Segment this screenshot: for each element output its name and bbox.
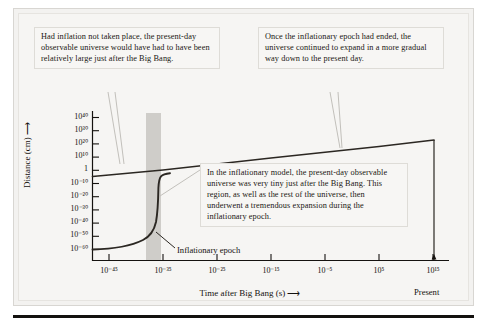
bottom-rule-divider [13,315,474,318]
ytick-label-9: 10⁻⁵⁰ [46,230,88,239]
x-axis-title: Time after Big Bang (s) ⟶ [150,288,350,298]
callout-left-text: Had inflation not taken place, the prese… [41,32,214,65]
y-axis-ticks [93,118,100,250]
callout-left: Had inflation not taken place, the prese… [34,27,220,69]
y-axis-arrow-icon: ⟶ [22,122,32,135]
leader-line-right-callout [330,92,342,148]
leader-line-left-callout [108,92,124,164]
ytick-label-0: 10⁴⁰ [46,112,88,121]
ytick-label-7: 10⁻³⁰ [46,204,88,213]
ytick-label-8: 10⁻⁴⁰ [46,217,88,226]
present-label: Present [414,287,439,297]
y-axis-title: Distance (cm) ⟶ [22,100,32,210]
ytick-label-2: 10²⁰ [46,138,88,147]
callout-middle-text: In the inflationary model, the present-d… [207,168,402,223]
xtick-label-5: 10⁵ [359,266,399,275]
xtick-label-1: 10⁻³⁵ [143,266,183,275]
xtick-label-3: 10⁻¹⁵ [251,266,291,275]
xtick-label-2: 10⁻²⁵ [197,266,237,275]
ytick-label-6: 10⁻²⁰ [46,191,88,200]
ytick-label-4: 1 [46,164,88,173]
x-axis-arrow-icon: ⟶ [287,288,300,298]
x-axis-title-text: Time after Big Bang (s) [200,288,286,298]
inflationary-epoch-label: Inflationary epoch [177,245,240,255]
callout-right: Once the inflationary epoch had ended, t… [258,27,444,69]
figure-container: 10⁴⁰ 10³⁰ 10²⁰ 10¹⁰ 1 10⁻¹⁰ 10⁻²⁰ 10⁻³⁰ … [0,0,487,326]
xtick-label-6: 10¹⁵ [413,266,453,275]
xtick-label-0: 10⁻⁴⁵ [89,266,129,275]
xtick-label-4: 10⁻⁵ [305,266,345,275]
present-arrow-icon [432,254,437,260]
ytick-label-5: 10⁻¹⁰ [46,178,88,187]
callout-middle: In the inflationary model, the present-d… [200,163,408,227]
ytick-label-10: 10⁻⁶⁰ [46,244,88,253]
y-axis-title-text: Distance (cm) [22,137,32,188]
callout-right-text: Once the inflationary epoch had ended, t… [265,32,438,65]
ytick-label-1: 10³⁰ [46,125,88,134]
ytick-label-3: 10¹⁰ [46,151,88,160]
